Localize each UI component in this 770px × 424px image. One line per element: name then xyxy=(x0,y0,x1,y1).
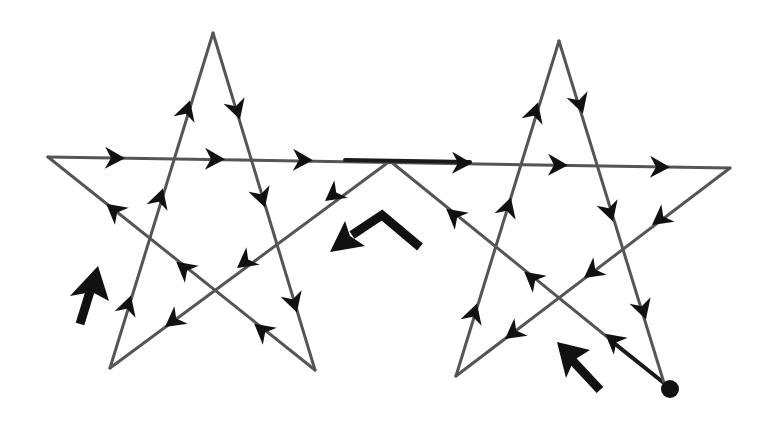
path-edges xyxy=(48,33,730,383)
arrowhead-icon xyxy=(158,306,187,336)
hint-arrow-bent-shaft xyxy=(352,215,420,247)
arrowhead-icon xyxy=(498,318,527,348)
two-star-path-diagram xyxy=(0,0,770,424)
hint-arrow-right xyxy=(557,342,600,390)
arrowhead-icon xyxy=(224,97,251,123)
hint-arrow-center xyxy=(330,215,420,252)
hint-arrow-up-left-shaft xyxy=(572,360,600,390)
hint-arrow-left xyxy=(70,266,109,324)
arrowhead-icon xyxy=(281,290,308,316)
arrowhead-icon xyxy=(249,185,276,211)
edge-horizontal-emphasis xyxy=(345,160,470,162)
start-point-dot xyxy=(661,380,679,398)
arrowhead-icon xyxy=(495,194,522,220)
